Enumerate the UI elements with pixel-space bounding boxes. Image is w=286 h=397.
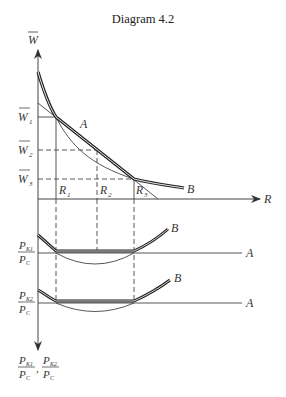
svg-text:3: 3: [28, 180, 33, 188]
curve-label-a-top: A: [79, 117, 88, 131]
curve-label-a-middle: A: [245, 246, 254, 260]
r-axis-label: R: [263, 192, 272, 206]
svg-text:W: W: [18, 173, 29, 185]
top-panel: W R W 1 W 2 W 3 R 1: [18, 32, 272, 206]
price-ratio-axis-label: P K1 P C , P K2 P C: [18, 354, 59, 381]
svg-text:P: P: [18, 289, 26, 301]
svg-text:W: W: [18, 144, 29, 156]
svg-text:2: 2: [108, 191, 112, 199]
r2-label: R 2: [99, 184, 112, 199]
curve-label-b-middle: B: [171, 221, 179, 235]
w2-label: W 2: [18, 141, 33, 159]
diagram-canvas: W R W 1 W 2 W 3 R 1: [0, 0, 286, 397]
svg-text:W: W: [28, 33, 39, 47]
curve-label-b-top: B: [187, 182, 195, 196]
bottom-thick-curve: [38, 280, 170, 301]
svg-text:1: 1: [67, 191, 71, 199]
middle-thin-parabola: [56, 253, 134, 264]
r1-label: R 1: [58, 184, 71, 199]
svg-text:R: R: [99, 184, 107, 196]
svg-text:P: P: [42, 354, 50, 366]
bottom-thin-parabola: [56, 303, 134, 312]
svg-text:2: 2: [29, 151, 33, 159]
svg-text:K2: K2: [25, 296, 33, 302]
curve-label-a-bottom: A: [245, 296, 254, 310]
svg-text:C: C: [26, 310, 31, 316]
svg-text:C: C: [26, 375, 31, 381]
svg-text:P: P: [18, 354, 26, 366]
w-axis-label: W: [28, 32, 39, 47]
svg-text:3: 3: [143, 191, 148, 199]
pk2-pc-label: P K2 P C: [18, 289, 35, 316]
svg-text:K1: K1: [25, 246, 33, 252]
svg-text:K1: K1: [25, 361, 33, 367]
w3-label: W 3: [18, 170, 33, 188]
svg-text:P: P: [42, 368, 50, 380]
svg-text:P: P: [18, 239, 26, 251]
svg-text:P: P: [18, 303, 26, 315]
pk1-pc-label: P K1 P C: [18, 239, 35, 266]
middle-panel: A B P K1 P C: [18, 221, 254, 266]
middle-curve-highlight: [38, 229, 168, 251]
middle-thick-curve: [38, 229, 168, 251]
svg-text:C: C: [26, 260, 31, 266]
svg-text:W: W: [18, 111, 29, 123]
svg-text:C: C: [50, 375, 55, 381]
bottom-panel: A B P K2 P C: [18, 271, 254, 316]
svg-text:P: P: [18, 253, 26, 265]
svg-text:P: P: [18, 368, 26, 380]
svg-text:,: ,: [36, 362, 39, 374]
svg-text:1: 1: [29, 118, 33, 126]
svg-text:R: R: [58, 184, 66, 196]
bottom-curve-highlight: [38, 280, 170, 301]
svg-text:K2: K2: [49, 361, 57, 367]
w1-label: W 1: [18, 108, 33, 126]
curve-label-b-bottom: B: [174, 271, 182, 285]
